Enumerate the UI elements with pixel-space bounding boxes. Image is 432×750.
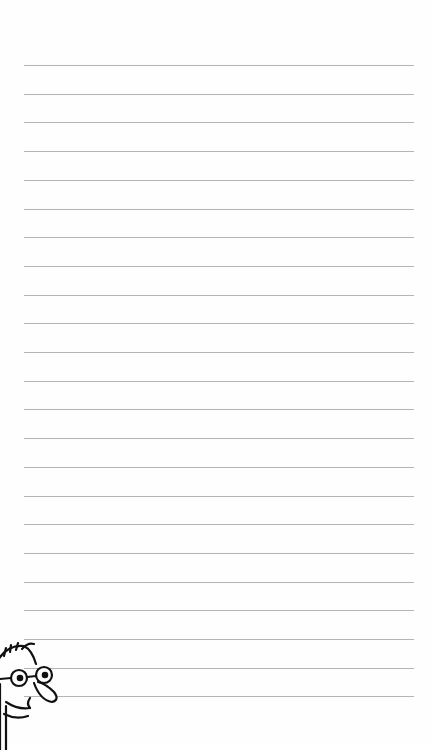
ruled-line	[24, 122, 414, 123]
ruled-line	[24, 438, 414, 439]
ruled-line	[24, 65, 414, 66]
cartoon-face-with-glasses-icon	[0, 640, 64, 750]
ruled-line	[24, 467, 414, 468]
ruled-line	[24, 582, 414, 583]
ruled-line	[24, 352, 414, 353]
ruled-line	[24, 409, 414, 410]
ruled-line	[24, 524, 414, 525]
ruled-line	[24, 496, 414, 497]
ruled-line	[24, 381, 414, 382]
ruled-line	[24, 295, 414, 296]
ruled-line	[24, 209, 414, 210]
ruled-line	[24, 696, 414, 697]
ruled-line	[24, 639, 414, 640]
ruled-line	[24, 668, 414, 669]
ruled-line	[24, 151, 414, 152]
ruled-line	[24, 553, 414, 554]
ruled-line	[24, 94, 414, 95]
ruled-line	[24, 323, 414, 324]
ruled-line	[24, 237, 414, 238]
ruled-line	[24, 180, 414, 181]
ruled-line	[24, 266, 414, 267]
ruled-line	[24, 610, 414, 611]
